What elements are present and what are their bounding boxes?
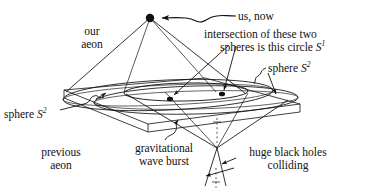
ccc-diagram: our aeon us, now intersection of these t…	[0, 0, 366, 192]
us-now-dot	[146, 14, 154, 22]
label-sphere-left: sphere S2	[4, 108, 84, 121]
label-gravitational-wave-burst: gravitational wave burst	[126, 142, 202, 168]
circle-s1-outline	[124, 82, 248, 102]
label-sphere-right: sphere S2	[268, 62, 348, 75]
leader-us-now	[162, 15, 236, 22]
label-intersection-line1: intersection of these two	[204, 28, 317, 40]
label-black-holes-colliding: huge black holes colliding	[238, 146, 338, 172]
label-sphere-left-superscript: 2	[43, 106, 47, 115]
label-us-now: us, now	[238, 10, 308, 23]
label-intersection-superscript: 1	[322, 39, 326, 48]
cone-lower-right-generator	[217, 100, 288, 148]
label-sphere-right-superscript: 2	[307, 60, 311, 69]
collision-axis-dashed	[216, 118, 217, 188]
label-previous-aeon: previous aeon	[28, 146, 94, 172]
label-intersection-line2: spheres is this circle	[220, 41, 316, 53]
leader-sphere-right-squiggle	[254, 68, 266, 84]
label-sphere-left-text: sphere	[4, 108, 37, 120]
leader-sphere-right	[268, 73, 276, 94]
sphere-s2-our-aeon	[94, 83, 299, 116]
circle-s1-intersection	[124, 82, 248, 102]
black-hole-worldline-left	[205, 148, 217, 186]
intersection-dot-front	[167, 97, 173, 102]
sphere-s2-right-outline	[94, 83, 299, 116]
label-intersection: intersection of these twospheres is this…	[204, 28, 364, 54]
slab-front-right-bottom	[148, 112, 300, 132]
black-hole-worldlines	[205, 148, 226, 186]
black-hole-worldline-right	[217, 148, 226, 186]
label-sphere-right-text: sphere	[268, 62, 301, 74]
leader-black-holes-upper	[222, 158, 236, 164]
leader-gravitational-wave-burst	[165, 120, 178, 140]
intersection-dot-back	[219, 92, 225, 97]
label-our-aeon: our aeon	[62, 25, 122, 51]
